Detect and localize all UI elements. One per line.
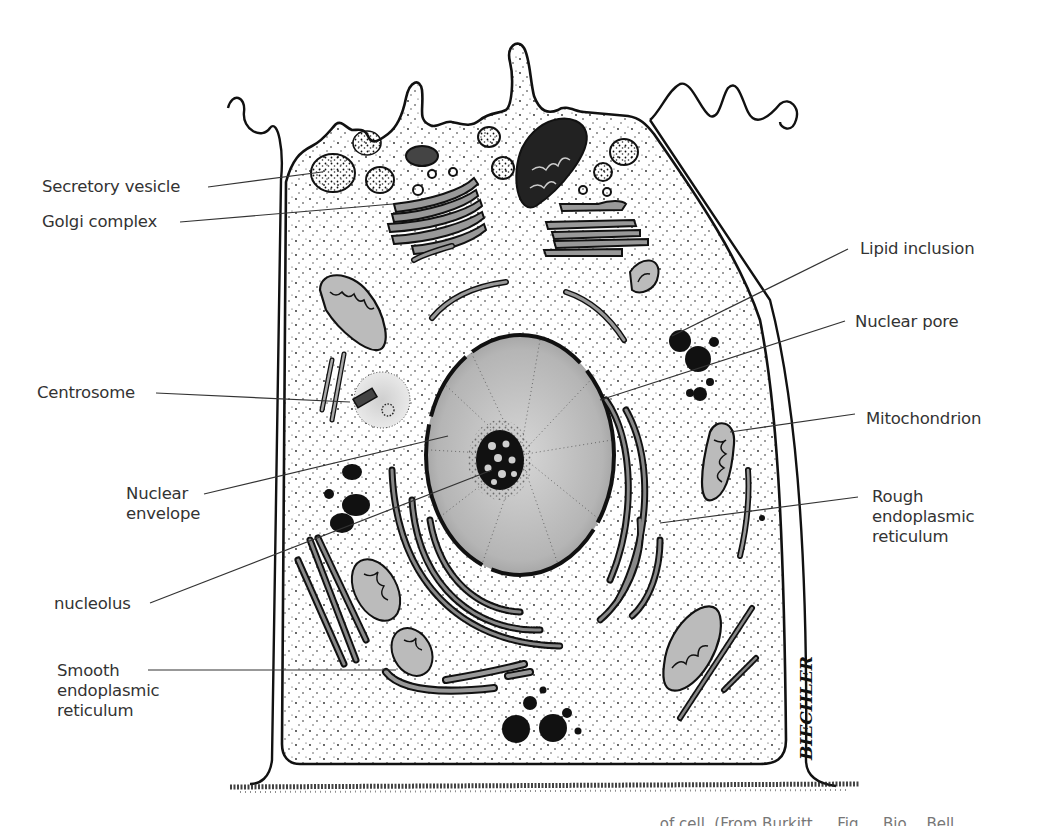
label-mitochondrion: Mitochondrion bbox=[866, 409, 981, 429]
neighbor-cell-left-membrane bbox=[228, 98, 282, 784]
label-nucleolus: nucleolus bbox=[54, 594, 131, 614]
label-rough-er: Rough endoplasmic reticulum bbox=[872, 487, 992, 547]
cell-diagram: BIECHLER Secretory vesicle Golgi complex… bbox=[0, 0, 1037, 826]
label-centrosome: Centrosome bbox=[37, 383, 135, 403]
label-line: endoplasmic bbox=[57, 681, 177, 701]
figure-caption-cropped: … of cell. (From Burkitt … Fig … Bio… Be… bbox=[640, 815, 1037, 826]
caption-text: … of cell. (From Burkitt … Fig … Bio… Be… bbox=[640, 815, 1037, 826]
label-line: envelope bbox=[126, 504, 216, 524]
label-line: Nuclear bbox=[126, 484, 216, 504]
label-golgi-complex: Golgi complex bbox=[42, 212, 157, 232]
label-line: reticulum bbox=[57, 701, 177, 721]
label-nuclear-envelope: Nuclear envelope bbox=[126, 484, 216, 524]
artist-signature: BIECHLER bbox=[796, 656, 816, 761]
label-line: reticulum bbox=[872, 527, 992, 547]
basement-membrane bbox=[230, 784, 860, 787]
nucleolus bbox=[468, 420, 532, 500]
label-line: Rough bbox=[872, 487, 992, 507]
svg-text:BIECHLER: BIECHLER bbox=[796, 656, 816, 761]
label-secretory-vesicle: Secretory vesicle bbox=[42, 177, 180, 197]
label-line: Smooth bbox=[57, 661, 177, 681]
label-nuclear-pore: Nuclear pore bbox=[855, 312, 959, 332]
label-line: endoplasmic bbox=[872, 507, 992, 527]
label-lipid-inclusion: Lipid inclusion bbox=[860, 239, 974, 259]
label-smooth-er: Smooth endoplasmic reticulum bbox=[57, 661, 177, 721]
